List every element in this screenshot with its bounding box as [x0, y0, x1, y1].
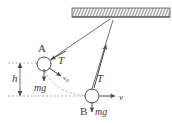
bob-B-label: B: [80, 105, 87, 117]
weight-at-A: mg: [34, 69, 46, 93]
velocity-at-B: v: [100, 92, 123, 102]
velocity-at-B-label: v: [119, 92, 123, 102]
bob-A-label: A: [38, 42, 46, 54]
swing-arc-path: [45, 71, 91, 96]
diagram-canvas: h A mg v0 T: [0, 0, 172, 124]
initial-velocity-subscript: 0: [66, 78, 69, 83]
initial-velocity-at-A: v0: [49, 68, 69, 83]
bob-A: A: [37, 42, 51, 71]
weight-at-B: mg: [92, 102, 107, 117]
height-label: h: [12, 72, 18, 84]
tension-at-A-label: T: [58, 54, 65, 66]
weight-at-A-label: mg: [34, 82, 46, 93]
tension-at-B-label: T: [97, 72, 104, 84]
hatched-ceiling: [72, 8, 170, 17]
physics-diagram-figure: h A mg v0 T: [0, 0, 172, 124]
initial-velocity-label: v0: [63, 74, 69, 83]
weight-at-B-label: mg: [95, 106, 107, 117]
